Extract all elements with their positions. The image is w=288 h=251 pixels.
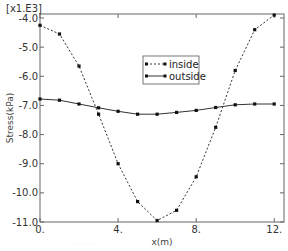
data-point-marker-icon	[156, 219, 159, 222]
legend-outside-label: outside	[169, 71, 206, 82]
legend-inside-marker-icon	[145, 63, 148, 66]
data-point-marker-icon	[97, 113, 100, 116]
data-point-marker-icon	[38, 24, 41, 27]
y-axis-ticks: -4.0-5.0-6.0-7.0-8.0-9.0-10.0-11.0	[12, 13, 284, 228]
data-point-marker-icon	[58, 32, 61, 35]
data-point-marker-icon	[214, 126, 217, 129]
data-point-marker-icon	[175, 209, 178, 212]
data-point-marker-icon	[253, 28, 256, 31]
data-series	[38, 14, 275, 223]
y-axis-title: Stress(kPa)	[5, 93, 15, 143]
data-point-marker-icon	[77, 65, 80, 68]
x-tick-label: 12.	[266, 224, 282, 235]
data-point-marker-icon	[273, 102, 276, 105]
data-point-marker-icon	[253, 102, 256, 105]
y-tick-label: -9.0	[18, 158, 38, 169]
y-tick-label: -10.0	[12, 187, 38, 198]
data-point-marker-icon	[136, 113, 139, 116]
legend: inside outside	[143, 56, 206, 84]
data-point-marker-icon	[97, 106, 100, 109]
data-point-marker-icon	[234, 103, 237, 106]
legend-outside-marker-icon	[145, 75, 148, 78]
y-tick-label: -6.0	[18, 71, 38, 82]
series-line-outside	[40, 99, 274, 114]
legend-inside-label: inside	[169, 59, 199, 70]
data-point-marker-icon	[234, 69, 237, 72]
data-point-marker-icon	[273, 14, 276, 17]
x-tick-label: 0.	[35, 224, 45, 235]
y-tick-label: -5.0	[18, 42, 38, 53]
series-line-inside	[40, 15, 274, 220]
data-point-marker-icon	[156, 113, 159, 116]
faint-caption: · · · · · ·	[70, 240, 94, 248]
x-tick-label: 8.	[191, 224, 201, 235]
y-tick-label: -7.0	[18, 100, 38, 111]
y-tick-label: -11.0	[12, 217, 38, 228]
y-tick-label: -4.0	[18, 13, 38, 24]
data-point-marker-icon	[58, 99, 61, 102]
x-tick-label: 4.	[113, 224, 123, 235]
data-point-marker-icon	[38, 97, 41, 100]
data-point-marker-icon	[195, 175, 198, 178]
data-point-marker-icon	[195, 109, 198, 112]
data-point-marker-icon	[136, 200, 139, 203]
legend-outside-marker-icon-end	[164, 75, 167, 78]
data-point-marker-icon	[117, 162, 120, 165]
y-tick-label: -8.0	[18, 129, 38, 140]
plot-frame	[40, 14, 284, 222]
data-point-marker-icon	[77, 102, 80, 105]
x-axis-title: x(m)	[151, 237, 172, 247]
data-point-marker-icon	[117, 110, 120, 113]
stress-line-chart: [x1.E3] -4.0-5.0-6.0-7.0-8.0-9.0-10.0-11…	[0, 0, 288, 251]
data-point-marker-icon	[175, 111, 178, 114]
x-axis-ticks: 0.4.8.12.	[35, 14, 282, 235]
data-point-marker-icon	[214, 106, 217, 109]
legend-inside-marker-icon-end	[164, 63, 167, 66]
